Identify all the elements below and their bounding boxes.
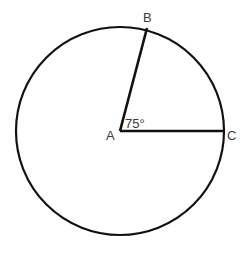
point-c-label: C	[227, 128, 236, 143]
angle-label: 75°	[125, 116, 145, 131]
point-a-label: A	[106, 128, 115, 143]
point-b-label: B	[143, 10, 152, 25]
circle-diagram: A B C 75°	[0, 0, 247, 254]
